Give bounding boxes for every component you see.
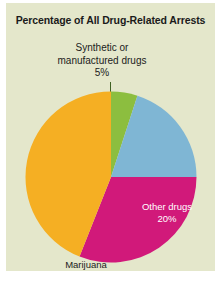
pie-chart-svg — [25, 91, 197, 263]
callout-value: 5% — [26, 67, 178, 80]
slice-value-marijuana: 44% — [49, 271, 123, 272]
callout-line-2: manufactured drugs — [58, 55, 147, 66]
callout-line-1: Synthetic or — [76, 42, 129, 53]
page-title: Percentage of All Drug-Related Arrests — [6, 14, 215, 26]
callout-synthetic-drugs: Synthetic or manufactured drugs 5% — [26, 42, 178, 80]
pie-chart: Other drugs 20% Heroin/cocaine 31% Marij… — [25, 91, 197, 263]
chart-figure: Percentage of All Drug-Related Arrests S… — [6, 3, 215, 271]
